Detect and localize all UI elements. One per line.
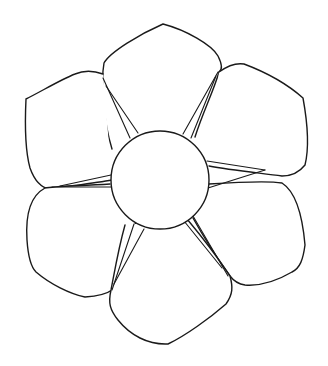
flower-drawing — [0, 0, 328, 366]
petal-upper-right — [209, 64, 308, 176]
flower-center-disc — [111, 131, 209, 229]
petal-upper-left — [25, 71, 112, 189]
petal-top — [103, 24, 222, 149]
